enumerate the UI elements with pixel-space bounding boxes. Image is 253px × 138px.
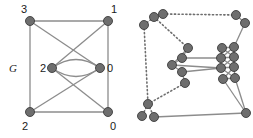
right-graph-node bbox=[150, 113, 159, 122]
node-label-mid-left: 2 bbox=[40, 62, 46, 74]
right-graph-node bbox=[230, 43, 239, 52]
right-graph-node bbox=[181, 79, 190, 88]
left-graph-edge bbox=[52, 68, 100, 77]
right-graph-node bbox=[184, 44, 193, 53]
right-graph-node bbox=[232, 11, 241, 20]
right-graph-panel bbox=[126, 0, 253, 138]
node-label-bottom-right: 0 bbox=[110, 120, 116, 132]
right-graph-nodes bbox=[138, 10, 251, 122]
left-graph-edge bbox=[52, 21, 108, 68]
left-graph-node bbox=[96, 64, 105, 73]
right-graph-node bbox=[230, 63, 239, 72]
right-graph-edge bbox=[148, 83, 185, 104]
left-graph-node bbox=[26, 108, 35, 117]
left-graph-node bbox=[104, 108, 113, 117]
right-graph-node bbox=[218, 44, 227, 53]
node-label-mid-right: 0 bbox=[107, 62, 113, 74]
right-graph-edge bbox=[144, 25, 148, 104]
left-graph-nodes bbox=[26, 17, 113, 117]
right-graph-node bbox=[241, 19, 250, 28]
right-graph-node bbox=[231, 74, 240, 83]
right-graph-node bbox=[178, 68, 187, 77]
right-graph-node bbox=[138, 112, 147, 121]
left-graph-edge bbox=[52, 68, 108, 112]
right-graph-node bbox=[168, 61, 177, 70]
left-graph-node bbox=[104, 17, 113, 26]
right-graph-node bbox=[219, 75, 228, 84]
right-graph-edge bbox=[154, 113, 246, 117]
right-graph-node bbox=[230, 53, 239, 62]
left-graph-svg: G 3 1 2 0 2 0 bbox=[0, 0, 126, 138]
left-graph-node bbox=[26, 17, 35, 26]
left-graph-edge bbox=[52, 60, 100, 69]
right-graph-edge bbox=[172, 65, 221, 68]
right-graph-node bbox=[217, 64, 226, 73]
right-graph-node bbox=[178, 54, 187, 63]
node-label-bottom-left: 2 bbox=[22, 120, 28, 132]
right-graph-edge bbox=[182, 68, 221, 72]
right-graph-node bbox=[140, 21, 149, 30]
right-graph-edge bbox=[223, 79, 246, 113]
right-graph-edge bbox=[163, 14, 236, 15]
right-graph-svg bbox=[126, 0, 253, 138]
left-graph-panel: G 3 1 2 0 2 0 bbox=[0, 0, 126, 138]
right-graph-edge bbox=[235, 78, 246, 113]
node-label-top-right: 1 bbox=[111, 3, 117, 15]
right-graph-node bbox=[217, 54, 226, 63]
right-graph-node bbox=[144, 100, 153, 109]
left-graph-node bbox=[48, 64, 57, 73]
right-graph-edge bbox=[154, 17, 188, 48]
right-graph-node bbox=[242, 109, 251, 118]
graph-name-label: G bbox=[9, 62, 17, 74]
node-label-top-left: 3 bbox=[21, 3, 27, 15]
two-graph-figure: G 3 1 2 0 2 0 bbox=[0, 0, 253, 138]
right-graph-node bbox=[159, 10, 168, 19]
right-graph-node bbox=[150, 13, 159, 22]
